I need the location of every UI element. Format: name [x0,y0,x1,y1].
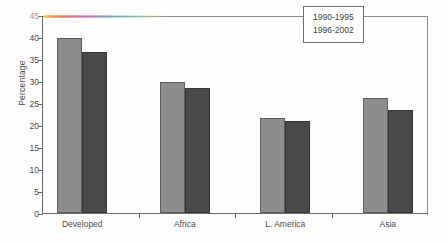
bar-africa-1990-1995 [160,82,185,213]
plot-border-top [42,16,428,17]
bar-l-america-1996-2002 [285,121,310,213]
y-tick-label: 0 [34,209,39,219]
y-tick-label: 20 [30,121,39,131]
legend-entry-1: 1990-1995 [313,11,354,24]
bar-l-america-1990-1995 [260,118,285,213]
bar-developed-1996-2002 [82,52,107,213]
x-category-label: Developed [62,219,103,229]
y-tick-label: 30 [30,77,39,87]
legend-box: 1990-19951996-2002 [303,6,364,43]
y-tick-label: 35 [30,55,39,65]
y-tick-label: 25 [30,99,39,109]
bar-asia-1996-2002 [388,110,413,213]
x-category-label: Africa [174,219,196,229]
y-axis-title: Percentage [17,33,27,133]
plot-border-right [427,16,428,215]
y-tick-label: 45 [30,11,39,21]
y-axis-line [42,16,43,215]
plot-area: 051015202530354045 DevelopedAfricaL. Ame… [42,16,428,214]
bar-developed-1990-1995 [57,38,82,213]
legend-entry-2: 1996-2002 [313,24,354,37]
x-category-label: Asia [379,219,396,229]
bar-africa-1996-2002 [185,88,210,213]
x-tick-mark [235,214,236,218]
x-tick-mark [332,214,333,218]
bar-chart-figure: Percentage 051015202530354045 DevelopedA… [0,0,448,245]
y-tick-label: 10 [30,165,39,175]
y-tick-label: 15 [30,143,39,153]
y-tick-label: 5 [34,187,39,197]
y-tick-label: 40 [30,33,39,43]
bar-asia-1990-1995 [363,98,388,213]
x-tick-mark [139,214,140,218]
x-category-label: L. America [265,219,305,229]
